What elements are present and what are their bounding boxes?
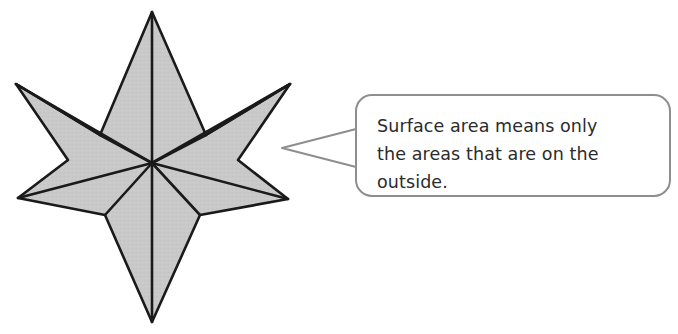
illustration-svg: Surface area means only the areas that a… bbox=[0, 0, 678, 334]
speech-bubble: Surface area means only the areas that a… bbox=[282, 95, 670, 196]
speech-bubble-line-3: outside. bbox=[377, 172, 448, 192]
speech-bubble-tail bbox=[282, 128, 360, 168]
stellated-star-shape bbox=[16, 12, 290, 322]
speech-bubble-line-1: Surface area means only bbox=[377, 116, 597, 136]
speech-bubble-line-2: the areas that are on the bbox=[377, 144, 599, 164]
figure-root: Surface area means only the areas that a… bbox=[0, 0, 678, 334]
